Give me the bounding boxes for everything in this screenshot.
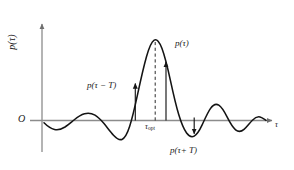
- figure-canvas: p(τ) O τ τopt p(τ) p(τ − T) p(τ+ T): [0, 0, 294, 170]
- origin-label: O: [18, 113, 25, 124]
- annotation-early: p(τ − T): [87, 80, 116, 90]
- tau-opt-tick-label: τopt: [145, 122, 155, 131]
- y-axis-label: p(τ): [6, 22, 17, 62]
- tau-opt-subscript: opt: [148, 125, 155, 131]
- annotation-late: p(τ+ T): [170, 145, 197, 155]
- x-axis-label: τ: [275, 120, 278, 129]
- plot-svg: [0, 0, 294, 170]
- annotation-peak: p(τ): [175, 38, 189, 48]
